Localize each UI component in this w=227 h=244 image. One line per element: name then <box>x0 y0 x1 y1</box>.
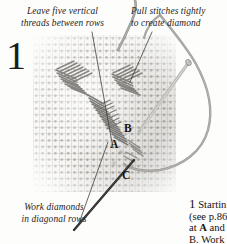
instruction-line-1: 1 Startin <box>189 198 227 211</box>
canvas-fabric-photo <box>33 35 176 192</box>
caption-work-diamonds: Work diamonds in diagonal rows <box>6 202 102 225</box>
instruction-line-1-text: Startin <box>196 199 227 210</box>
instruction-line-3: at A and <box>189 222 227 234</box>
caption-leave-threads-line1: Leave five vertical <box>27 6 98 16</box>
caption-pull-stitches-line1: Pull stitches tightly <box>131 6 206 16</box>
instruction-line-3-post: and <box>207 222 225 233</box>
instruction-line-2: (see p.86 <box>189 211 227 223</box>
instruction-point-a: A <box>199 222 207 233</box>
caption-work-diamonds-line1: Work diamonds <box>24 202 84 212</box>
instruction-line-3-pre: at <box>189 222 199 233</box>
caption-work-diamonds-line2: in diagonal rows <box>22 214 87 224</box>
canvas-edge-falloff <box>27 29 182 198</box>
instruction-body-text: 1 Startin (see p.86 at A and B. Work <box>189 198 227 244</box>
caption-leave-threads-line2: threads between rows <box>21 18 104 28</box>
instruction-line-4: B. Work <box>189 234 227 244</box>
point-label-c: C <box>122 170 130 182</box>
figure-panel: 1 <box>0 0 227 244</box>
caption-pull-stitches: Pull stitches tightly to create diamond <box>131 6 224 29</box>
caption-leave-threads: Leave five vertical threads between rows <box>10 6 115 29</box>
point-label-b: B <box>124 123 132 135</box>
caption-pull-stitches-line2: to create diamond <box>131 18 201 28</box>
step-number: 1 <box>6 36 26 76</box>
point-label-a: A <box>110 139 118 151</box>
